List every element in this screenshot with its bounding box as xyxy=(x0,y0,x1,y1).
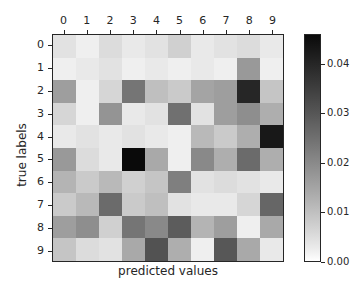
x-tick-mark xyxy=(87,30,88,34)
y-tick-mark xyxy=(48,68,52,69)
heatmap-cell xyxy=(214,148,237,171)
y-tick-mark xyxy=(48,159,52,160)
heatmap-cell xyxy=(237,193,260,216)
heatmap-cell xyxy=(53,216,76,239)
heatmap-cell xyxy=(237,238,260,261)
heatmap-cell xyxy=(53,80,76,103)
heatmap-cell xyxy=(191,148,214,171)
heatmap-cell xyxy=(260,193,283,216)
heatmap-cell xyxy=(191,238,214,261)
heatmap-cell xyxy=(53,58,76,81)
y-tick-label: 8 xyxy=(26,221,44,234)
colorbar-tick-mark xyxy=(321,212,325,213)
heatmap-cell xyxy=(145,80,168,103)
heatmap-cell xyxy=(76,35,99,58)
x-tick-label: 5 xyxy=(169,14,191,27)
heatmap-cell xyxy=(122,80,145,103)
heatmap-cell xyxy=(99,103,122,126)
heatmap-cell xyxy=(122,193,145,216)
x-tick-mark xyxy=(156,30,157,34)
heatmap-cell xyxy=(260,103,283,126)
heatmap-cell xyxy=(99,58,122,81)
y-tick-label: 5 xyxy=(26,152,44,165)
heatmap-plot-area xyxy=(52,34,284,262)
heatmap-cell xyxy=(145,216,168,239)
heatmap-cell xyxy=(168,103,191,126)
heatmap-cell xyxy=(214,35,237,58)
x-axis-title: predicted values xyxy=(52,264,284,278)
heatmap-cell xyxy=(237,125,260,148)
heatmap-cell xyxy=(191,125,214,148)
y-tick-mark xyxy=(48,91,52,92)
heatmap-cell-grid xyxy=(53,35,283,261)
y-tick-mark xyxy=(48,45,52,46)
x-tick-mark xyxy=(249,30,250,34)
heatmap-cell xyxy=(191,171,214,194)
y-tick-mark xyxy=(48,114,52,115)
heatmap-cell xyxy=(168,35,191,58)
heatmap-cell xyxy=(191,193,214,216)
heatmap-cell xyxy=(214,125,237,148)
heatmap-cell xyxy=(76,193,99,216)
heatmap-cell xyxy=(191,58,214,81)
heatmap-cell xyxy=(53,171,76,194)
heatmap-cell xyxy=(237,103,260,126)
heatmap-cell xyxy=(76,238,99,261)
heatmap-cell xyxy=(145,238,168,261)
y-tick-mark xyxy=(48,251,52,252)
heatmap-cell xyxy=(76,58,99,81)
y-tick-label: 2 xyxy=(26,84,44,97)
x-tick-label: 7 xyxy=(215,14,237,27)
colorbar-tick-label: 0.03 xyxy=(327,107,349,118)
heatmap-cell xyxy=(168,193,191,216)
heatmap-cell xyxy=(260,238,283,261)
heatmap-cell xyxy=(214,216,237,239)
heatmap-cell xyxy=(122,238,145,261)
colorbar-tick-label: 0.02 xyxy=(327,157,349,168)
x-tick-label: 8 xyxy=(238,14,260,27)
colorbar-gradient xyxy=(305,35,320,261)
heatmap-cell xyxy=(168,216,191,239)
colorbar xyxy=(304,34,321,262)
heatmap-cell xyxy=(122,148,145,171)
x-tick-mark xyxy=(272,30,273,34)
heatmap-cell xyxy=(214,171,237,194)
heatmap-cell xyxy=(145,58,168,81)
heatmap-cell xyxy=(145,171,168,194)
heatmap-cell xyxy=(260,80,283,103)
heatmap-cell xyxy=(122,103,145,126)
y-tick-mark xyxy=(48,205,52,206)
heatmap-cell xyxy=(53,193,76,216)
y-tick-label: 7 xyxy=(26,198,44,211)
heatmap-cell xyxy=(122,58,145,81)
x-tick-label: 3 xyxy=(122,14,144,27)
confusion-matrix-figure: true labels 01234567890123456789 predict… xyxy=(0,0,350,298)
heatmap-cell xyxy=(76,148,99,171)
colorbar-tick-label: 0.00 xyxy=(327,256,349,267)
y-tick-label: 0 xyxy=(26,38,44,51)
heatmap-cell xyxy=(214,103,237,126)
heatmap-cell xyxy=(145,193,168,216)
heatmap-cell xyxy=(76,103,99,126)
heatmap-cell xyxy=(237,35,260,58)
heatmap-cell xyxy=(145,35,168,58)
x-tick-mark xyxy=(64,30,65,34)
colorbar-tick-mark xyxy=(321,113,325,114)
heatmap-cell xyxy=(214,80,237,103)
colorbar-tick-label: 0.04 xyxy=(327,58,349,69)
y-tick-mark xyxy=(48,182,52,183)
heatmap-cell xyxy=(76,125,99,148)
heatmap-cell xyxy=(122,35,145,58)
heatmap-cell xyxy=(99,80,122,103)
colorbar-tick-mark xyxy=(321,64,325,65)
heatmap-cell xyxy=(214,193,237,216)
x-tick-mark xyxy=(110,30,111,34)
heatmap-cell xyxy=(214,58,237,81)
x-tick-label: 0 xyxy=(53,14,75,27)
heatmap-cell xyxy=(99,148,122,171)
y-tick-mark xyxy=(48,137,52,138)
heatmap-cell xyxy=(191,216,214,239)
heatmap-cell xyxy=(214,238,237,261)
x-tick-label: 1 xyxy=(76,14,98,27)
heatmap-cell xyxy=(260,148,283,171)
